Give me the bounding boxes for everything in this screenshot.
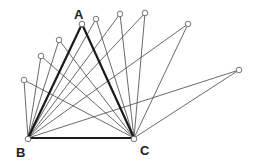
point-p8	[236, 67, 242, 73]
edge-ac	[82, 24, 134, 138]
edge-ab	[28, 24, 82, 138]
edge-c-p4	[96, 19, 134, 138]
point-p7	[185, 21, 191, 27]
point-A	[79, 21, 85, 27]
point-p5	[117, 11, 123, 17]
point-p6	[142, 10, 148, 16]
point-p2	[38, 53, 44, 59]
label-a: A	[74, 7, 84, 22]
edge-b-p1	[24, 80, 28, 138]
point-p3	[56, 37, 62, 43]
edge-c-p2	[41, 56, 134, 138]
triangle-arc-diagram: A B C	[0, 0, 261, 166]
edge-c-p6	[134, 13, 145, 138]
point-p1	[21, 77, 27, 83]
thin-triangle-edges	[24, 13, 239, 138]
point-c	[131, 136, 137, 142]
point-b	[25, 136, 31, 142]
apex-points	[21, 10, 242, 142]
label-c: C	[140, 143, 150, 158]
edge-b-p4	[28, 19, 96, 138]
label-b: B	[16, 145, 25, 160]
point-p4	[93, 16, 99, 22]
